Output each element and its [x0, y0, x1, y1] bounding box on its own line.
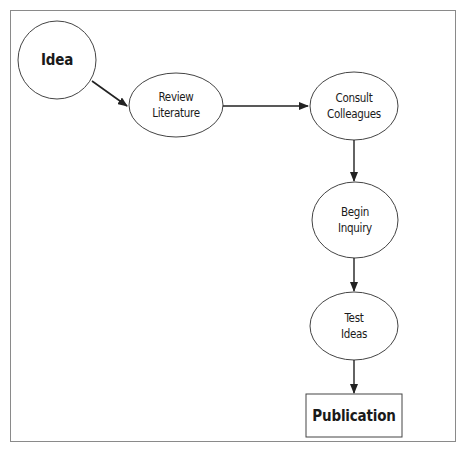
node-test: Test Ideas — [310, 292, 398, 360]
node-review: Review Literature — [129, 73, 223, 137]
node-begin-label: Begin Inquiry — [338, 204, 372, 236]
node-idea-label: Idea — [41, 52, 73, 68]
node-review-label: Review Literature — [152, 89, 200, 121]
node-test-label: Test Ideas — [341, 310, 367, 342]
node-idea: Idea — [18, 21, 96, 99]
node-publication: Publication — [306, 394, 402, 437]
node-consult-label: Consult Colleagues — [327, 90, 381, 122]
node-publication-label: Publication — [312, 408, 395, 424]
edge-idea-review — [92, 81, 127, 106]
node-begin: Begin Inquiry — [312, 182, 398, 258]
node-consult: Consult Colleagues — [310, 72, 398, 140]
